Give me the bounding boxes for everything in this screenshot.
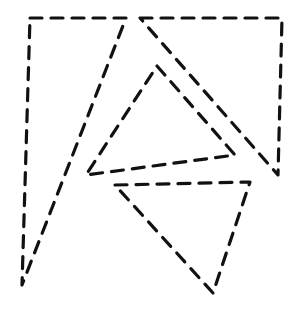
middle-triangle <box>86 66 235 175</box>
bottom-triangle <box>115 182 250 293</box>
top-right-triangle <box>140 18 282 175</box>
dashed-triangles-drawing <box>0 0 302 321</box>
tall-left-triangle <box>22 18 126 285</box>
